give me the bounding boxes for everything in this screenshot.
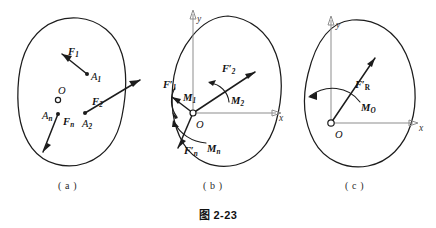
point-a1-marker (85, 72, 89, 76)
label-y-axis-b: y (197, 15, 201, 25)
label-fn-a: Fn (63, 117, 74, 129)
label-f2-prime-b: F′2 (222, 64, 235, 76)
label-m1-b: M1 (183, 93, 196, 105)
label-f1-a: F1 (68, 47, 79, 59)
force-fr-prime-arrowhead (367, 58, 375, 67)
panel-a-graphic (0, 0, 150, 180)
label-o-a: O (58, 86, 66, 97)
label-mn-b: Mn (207, 144, 221, 156)
moment-mn-arrowhead (172, 120, 179, 127)
label-x-axis-c: x (419, 124, 423, 134)
label-f1-prime-b: F′1 (163, 80, 176, 92)
label-f2-a: F2 (92, 97, 103, 109)
panel-b-caption: ( b ) (203, 180, 223, 191)
label-an-a: An (42, 111, 53, 123)
label-m2-b: M2 (231, 96, 244, 108)
rigid-body-outline-c (305, 20, 416, 167)
label-origin-b: O (196, 120, 204, 131)
moment-mo-arrowhead (308, 92, 317, 100)
point-a2-marker (83, 111, 87, 115)
origin-marker-c (328, 120, 334, 126)
label-x-axis-b: x (279, 114, 283, 124)
origin-marker-b (190, 110, 196, 116)
label-fr-prime-c: F′R (355, 80, 370, 92)
label-origin-c: O (335, 130, 343, 141)
moment-m2-arrowhead (208, 80, 216, 86)
panel-a-caption: ( a ) (58, 180, 77, 191)
rigid-body-outline-a (18, 18, 126, 166)
force-vector-f2-prime (193, 72, 255, 113)
figure-2-23: F1 A1 F2 A2 Fn An O ( a ) y (0, 0, 436, 228)
label-mo-c: MO (361, 103, 376, 115)
label-fn-prime-b: F′n (184, 146, 198, 158)
label-y-axis-c: y (336, 21, 340, 31)
label-a1-a: A1 (91, 72, 101, 84)
figure-caption: 图 2-23 (0, 206, 436, 222)
label-a2-a: A2 (82, 119, 92, 131)
point-an-marker (56, 112, 60, 116)
reference-point-o-a (55, 97, 60, 102)
panel-c-caption: ( c ) (345, 180, 364, 191)
